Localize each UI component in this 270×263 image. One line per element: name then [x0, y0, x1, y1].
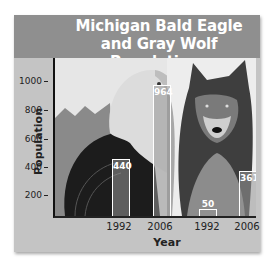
- plot-area: 440 964 50 361: [53, 58, 256, 218]
- y-tick-1000: 1000: [19, 76, 42, 86]
- bar-eagle-1992: 440: [112, 159, 130, 216]
- y-tick-200: 200: [25, 190, 42, 200]
- bar-wolf-2006: 361: [239, 171, 256, 216]
- bar-eagle-2006: 964: [153, 85, 171, 216]
- x-tick-wolf-1992: 1992: [192, 221, 222, 232]
- x-tick-wolf-2006: 2006: [232, 221, 262, 232]
- bar-value-label: 361: [240, 173, 256, 183]
- x-axis-label: Year: [142, 236, 192, 249]
- x-tick-eagle-2006: 2006: [145, 221, 175, 232]
- chart-frame: Michigan Bald Eagle and Gray Wolf Popula…: [14, 15, 260, 252]
- x-tick-eagle-1992: 1992: [104, 221, 134, 232]
- bar-value-label: 440: [113, 161, 129, 171]
- bar-wolf-1992: 50: [199, 209, 217, 216]
- bar-value-label: 964: [154, 87, 170, 97]
- y-axis-label: Population: [32, 102, 45, 182]
- chart-header: Michigan Bald Eagle and Gray Wolf Popula…: [14, 15, 260, 58]
- bar-value-label: 50: [200, 199, 216, 209]
